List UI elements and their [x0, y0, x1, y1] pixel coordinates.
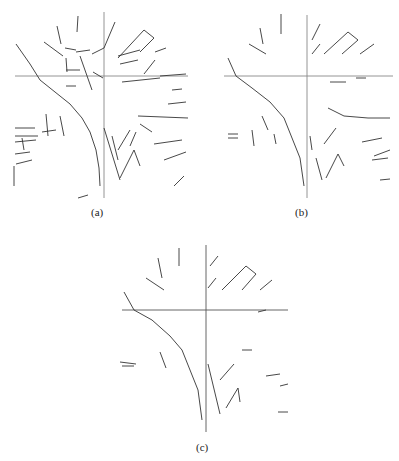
- caption-a: (a): [91, 206, 103, 218]
- panel-c: [120, 245, 288, 432]
- figure-canvas: [0, 0, 399, 461]
- caption-c: (c): [196, 441, 208, 453]
- panel-a: [14, 12, 188, 198]
- caption-b: (b): [295, 206, 308, 218]
- panel-b: [224, 14, 393, 198]
